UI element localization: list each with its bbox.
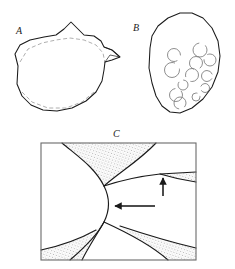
inclusion-crescent [165, 63, 180, 78]
panel-label-b: B [133, 22, 140, 33]
panel-a-outline [15, 22, 120, 111]
figure-plate: A B C [0, 0, 235, 269]
inclusion-crescent [201, 84, 210, 93]
panel-label-a: A [16, 25, 23, 36]
inclusion-crescent [168, 49, 181, 62]
stipple-wedge-bottom-right [120, 226, 196, 260]
panel-c-arrows [115, 178, 163, 206]
panel-a [15, 22, 120, 111]
inclusion-crescent [202, 71, 213, 82]
inclusion-crescent [174, 97, 186, 109]
panel-b [149, 13, 220, 113]
inclusion-crescent [204, 54, 216, 66]
stipple-wedge-top [62, 143, 156, 186]
inclusion-crescent [192, 93, 200, 101]
panel-a-dashed-contour [20, 38, 105, 63]
inclusion-crescent [193, 43, 207, 57]
panel-c [41, 143, 196, 260]
panel-label-c: C [113, 128, 120, 139]
panel-b-outline [149, 13, 220, 113]
panel-b-inclusions [165, 43, 217, 109]
inclusion-crescent [170, 89, 183, 102]
inclusion-crescent [186, 69, 199, 82]
inclusion-crescent [190, 57, 203, 70]
inclusion-crescent [178, 80, 188, 90]
